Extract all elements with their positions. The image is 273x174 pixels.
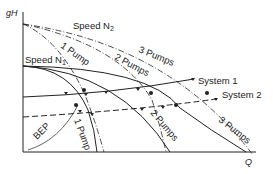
system-2-label: System 2: [222, 89, 262, 100]
system-2-curve: [23, 99, 216, 117]
operating-points: [64, 78, 218, 116]
three-pumps-bottom-label: 3 Pumps: [217, 114, 254, 146]
two-pumps-bottom-label: 2 Pumps: [148, 107, 181, 143]
bep-label: BEP: [31, 120, 52, 141]
x-axis-label: Q: [245, 157, 252, 167]
y-axis-label: gH: [6, 8, 18, 18]
system-1-curve: [23, 79, 194, 97]
system-1-label: System 1: [198, 75, 238, 86]
speed-n2-label: Speed N2: [73, 20, 114, 32]
speed-n1-two-pumps-curve: [23, 66, 170, 152]
pump-curve-diagram: gH Q Speed N2 Speed N1 1 Pump 2 Pumps 3 …: [0, 0, 273, 174]
one-pump-bottom-label: 1 Pump: [72, 117, 94, 152]
speed-n1-label: Speed N1: [25, 54, 66, 66]
